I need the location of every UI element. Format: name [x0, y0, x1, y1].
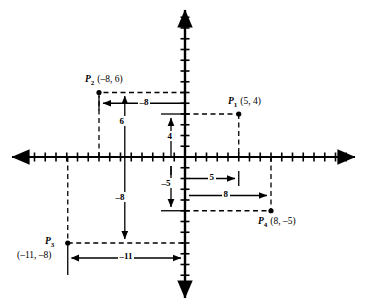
measure-label-4: 4	[166, 131, 174, 141]
point-label-p1-coord: (5, 4)	[240, 96, 261, 107]
measure-label-5: 5	[208, 172, 216, 182]
point-label-p4: P4(8, –5)	[258, 216, 296, 229]
point-dot-p2	[96, 90, 101, 95]
point-label-p4-subscript: 4	[264, 221, 268, 229]
guide-lines-p3	[68, 157, 185, 243]
measure-label-neg11: –11	[118, 251, 134, 261]
point-dot-p1	[236, 111, 241, 116]
guide-lines-p1	[185, 114, 239, 157]
measure-label-6: 6	[118, 116, 126, 126]
plot-svg	[0, 0, 365, 308]
measure-label-neg5: –5	[160, 178, 172, 188]
point-label-p1-subscript: 1	[234, 101, 238, 109]
guide-lines-p4	[185, 157, 271, 211]
coordinate-plane-figure: P1(5, 4) P2(–8, 6) P3 (–11, –8) P4(8, –5…	[0, 0, 365, 308]
measure-label-neg8-horizontal: –8	[138, 97, 150, 107]
point-label-p2-subscript: 2	[91, 79, 95, 87]
point-label-p2: P2(–8, 6)	[85, 74, 123, 87]
point-label-p1: P1(5, 4)	[228, 96, 261, 109]
point-label-p2-coord: (–8, 6)	[97, 74, 122, 85]
point-dot-p3	[65, 240, 70, 245]
point-label-p3-coord: (–11, –8)	[17, 250, 51, 261]
point-label-p4-coord: (8, –5)	[270, 216, 295, 227]
measure-label-neg8-vertical: –8	[114, 192, 126, 202]
point-dot-p4	[268, 208, 273, 213]
point-label-p3-subscript: 3	[51, 241, 55, 249]
measure-label-8: 8	[222, 189, 230, 199]
point-label-p3: P3 (–11, –8)	[17, 236, 54, 261]
measure-neg5-vertical	[161, 166, 185, 211]
